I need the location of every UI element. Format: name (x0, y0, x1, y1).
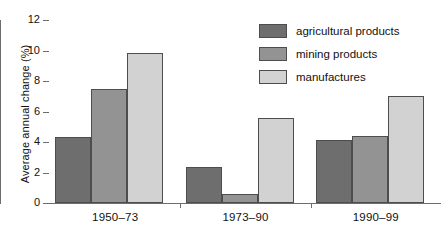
chart-legend: agricultural productsmining productsmanu… (259, 20, 439, 89)
y-axis-tick (43, 173, 49, 174)
legend-item-label: agricultural products (296, 25, 400, 37)
y-axis-tick-label: 4 (14, 135, 40, 147)
y-axis-tick-label: 6 (14, 105, 40, 117)
y-axis-tick-label: 12 (14, 13, 40, 25)
y-axis-tick (43, 51, 49, 52)
x-axis-category-label: 1950–73 (50, 211, 180, 223)
bar (91, 89, 127, 203)
bar (222, 194, 258, 203)
y-axis-tick (43, 203, 49, 204)
y-axis-tick (43, 81, 49, 82)
bar (258, 118, 294, 203)
y-axis-tick (43, 142, 49, 143)
x-axis-category-label: 1973–90 (180, 211, 310, 223)
bar (352, 136, 388, 203)
legend-item: manufactures (259, 66, 439, 87)
bar (55, 137, 91, 203)
bar (127, 53, 163, 203)
bar (388, 96, 424, 203)
y-axis-line (0, 20, 1, 204)
bar-chart: Average annual change (%) 024681012 1950… (0, 0, 446, 238)
y-axis-tick-label: 0 (14, 196, 40, 208)
legend-swatch-icon (259, 24, 287, 38)
x-axis-separator (180, 203, 181, 208)
legend-item: mining products (259, 43, 439, 64)
legend-item-label: manufactures (296, 71, 366, 83)
x-axis-category-label: 1990–99 (311, 211, 441, 223)
legend-swatch-icon (259, 70, 287, 84)
legend-swatch-icon (259, 47, 287, 61)
legend-item-label: mining products (296, 48, 377, 60)
y-axis-tick-label: 2 (14, 166, 40, 178)
bar (316, 140, 352, 203)
bar (186, 167, 222, 203)
x-axis-separator (311, 203, 312, 208)
y-axis-tick (43, 20, 49, 21)
y-axis-tick-label: 8 (14, 74, 40, 86)
legend-item: agricultural products (259, 20, 439, 41)
y-axis-tick-label: 10 (14, 44, 40, 56)
x-axis-line (49, 203, 441, 204)
y-axis-tick (43, 112, 49, 113)
